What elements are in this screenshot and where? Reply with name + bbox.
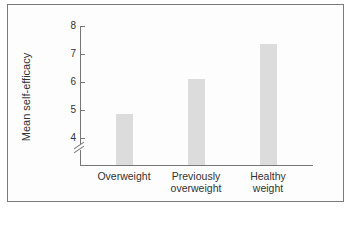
x-tick-label: Healthyweight	[228, 170, 308, 194]
y-tick-label: 5	[64, 104, 76, 115]
y-tick	[80, 82, 85, 83]
bar-healthy-weight	[260, 44, 277, 165]
x-tick-label-line: Healthy	[228, 170, 308, 182]
y-tick	[80, 54, 85, 55]
x-tick-label-line: overweight	[156, 182, 236, 194]
y-tick	[80, 138, 85, 139]
y-tick-label: 7	[64, 48, 76, 59]
y-tick	[80, 110, 85, 111]
y-tick-label: 4	[64, 132, 76, 143]
x-tick-label-line: Previously	[156, 170, 236, 182]
bar-previously-overweight	[188, 79, 205, 165]
x-axis-line	[80, 165, 313, 166]
y-tick	[80, 26, 85, 27]
x-tick-label: Overweight	[84, 170, 164, 182]
x-tick-label: Previouslyoverweight	[156, 170, 236, 194]
cut-off-caption	[8, 209, 348, 217]
x-tick-label-line: weight	[228, 182, 308, 194]
bar-overweight	[116, 114, 133, 165]
x-tick-label-line: Overweight	[84, 170, 164, 182]
y-tick-label: 8	[64, 20, 76, 31]
y-tick-label: 6	[64, 76, 76, 87]
y-axis-label: Mean self-efficacy	[20, 53, 32, 141]
